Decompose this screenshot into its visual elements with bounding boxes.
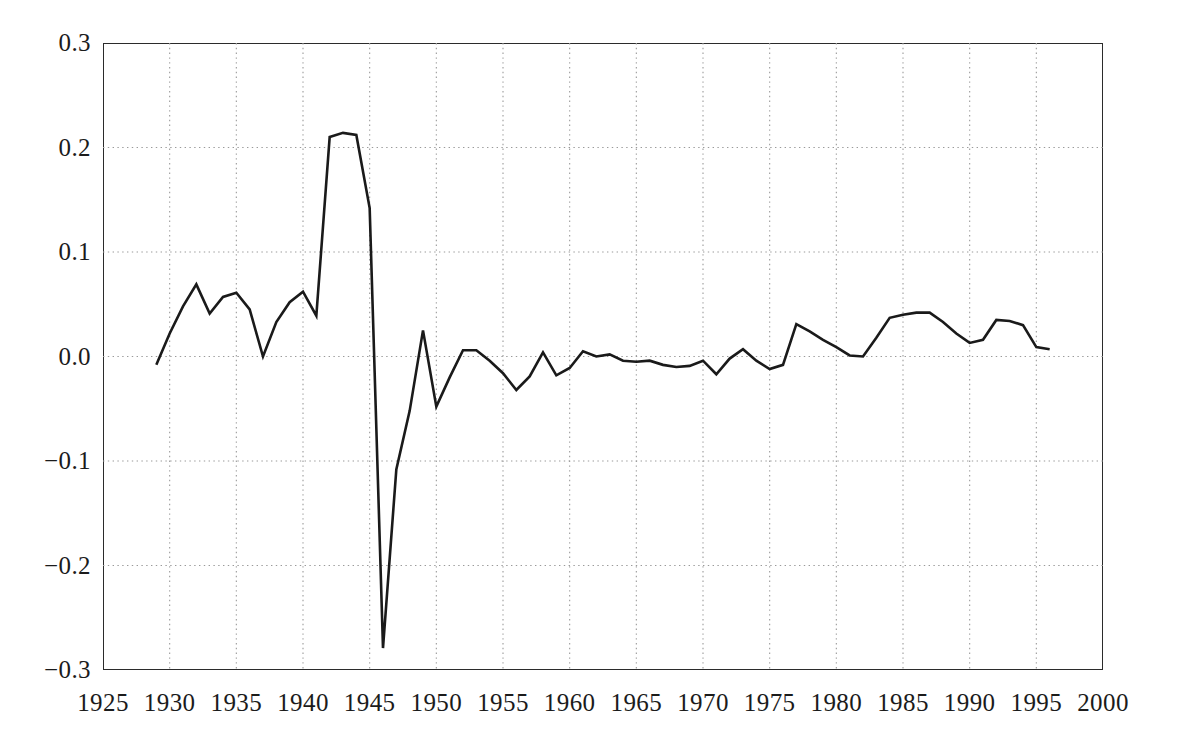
y-tick-label: 0.2 [5,135,91,160]
y-tick-label: −0.1 [5,448,91,473]
y-tick-label: −0.3 [5,657,91,682]
y-tick-label: −0.2 [5,553,91,578]
y-tick-label: 0.0 [5,344,91,369]
chart-container: 0.30.20.10.0−0.1−0.2−0.3 192519301935194… [0,0,1190,750]
y-tick-label: 0.3 [5,30,91,55]
plot-area-frame [103,43,1103,670]
y-tick-label: 0.1 [5,239,91,264]
x-tick-label: 2000 [1058,690,1148,716]
